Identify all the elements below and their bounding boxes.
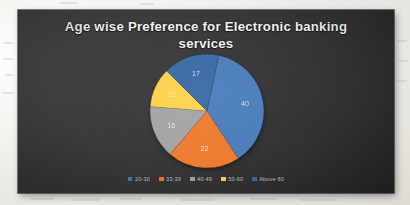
legend-label: 50-60 (228, 176, 243, 182)
presentation-slide: Age wise Preference for Electronic banki… (18, 10, 394, 193)
paper-smudge (300, 199, 338, 201)
paper-smudge (60, 2, 78, 4)
pie-data-label: 12 (168, 90, 176, 99)
pie-chart-svg: 4022161217 (149, 53, 265, 169)
paper-smudge (3, 58, 14, 60)
legend-label: 33-39 (166, 176, 181, 182)
paper-smudge (2, 92, 14, 94)
legend-swatch-icon (252, 177, 257, 182)
legend-label: 40-49 (197, 176, 212, 182)
paper-smudge (396, 80, 407, 82)
paper-smudge (250, 198, 276, 200)
legend-swatch-icon (128, 177, 133, 182)
legend-swatch-icon (159, 177, 164, 182)
legend-item-40-49[interactable]: 40-49 (190, 176, 212, 182)
paper-smudge (120, 198, 142, 200)
legend-item-above-60[interactable]: Above 60 (252, 176, 284, 182)
paper-smudge (70, 199, 100, 201)
pie-data-label: 16 (167, 121, 175, 130)
legend-swatch-icon (190, 177, 195, 182)
legend-label: Above 60 (259, 176, 284, 182)
pie-data-label: 22 (201, 144, 209, 153)
chart-legend: 20-3033-3940-4950-60Above 60 (18, 176, 394, 182)
pie-data-label: 17 (192, 69, 200, 78)
legend-swatch-icon (221, 177, 226, 182)
legend-label: 20-30 (135, 176, 150, 182)
paper-smudge (398, 60, 407, 62)
pie-data-label: 40 (241, 99, 249, 108)
paper-smudge (4, 42, 13, 44)
paper-smudge (140, 3, 154, 5)
legend-item-50-60[interactable]: 50-60 (221, 176, 243, 182)
paper-smudge (5, 74, 13, 76)
paper-smudge (180, 199, 214, 201)
paper-smudge (30, 198, 54, 200)
legend-item-33-39[interactable]: 33-39 (159, 176, 181, 182)
legend-item-20-30[interactable]: 20-30 (128, 176, 150, 182)
pie-chart: 4022161217 (18, 10, 394, 193)
paper-smudge (397, 40, 407, 42)
